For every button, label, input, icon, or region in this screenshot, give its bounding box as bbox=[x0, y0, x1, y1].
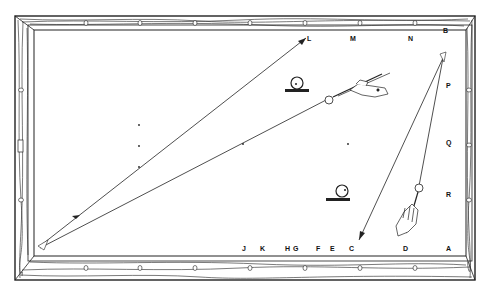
label-E: E bbox=[330, 245, 335, 252]
cue-ball-lower bbox=[415, 184, 423, 192]
billiard-table-diagram: L M N B P Q R J K H G F E C D A bbox=[0, 0, 490, 289]
table-rails bbox=[15, 16, 475, 280]
label-P: P bbox=[446, 82, 451, 89]
cue-ball-upper bbox=[325, 96, 333, 104]
label-N: N bbox=[408, 35, 413, 42]
label-L: L bbox=[307, 35, 312, 42]
label-H: H bbox=[285, 245, 290, 252]
rail-marker-left bbox=[18, 140, 23, 152]
label-C: C bbox=[349, 245, 354, 252]
label-F: F bbox=[316, 245, 321, 252]
label-Q: Q bbox=[446, 139, 452, 147]
label-B: B bbox=[443, 27, 448, 34]
label-D: D bbox=[403, 245, 408, 252]
label-K: K bbox=[260, 245, 265, 252]
label-J: J bbox=[242, 245, 246, 252]
label-A: A bbox=[446, 245, 451, 252]
label-R: R bbox=[446, 191, 451, 198]
label-G: G bbox=[293, 245, 299, 252]
label-M: M bbox=[350, 35, 356, 42]
